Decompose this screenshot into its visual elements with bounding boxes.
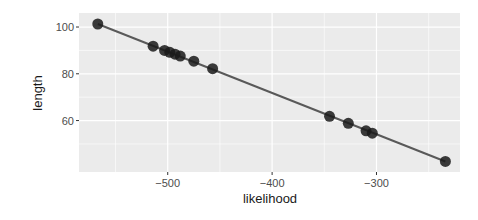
scatter-chart: −500−400−300 6080100 likelihood length xyxy=(0,0,478,220)
y-tick-label: 100 xyxy=(56,21,74,33)
x-axis: −500−400−300 xyxy=(155,172,389,189)
x-tick-label: −400 xyxy=(260,177,285,189)
data-point xyxy=(440,156,451,167)
y-axis-title: length xyxy=(30,75,45,110)
data-point xyxy=(343,118,354,129)
data-point xyxy=(367,128,378,139)
data-point xyxy=(175,51,186,62)
data-point xyxy=(188,56,199,67)
data-point xyxy=(148,41,159,52)
y-tick-label: 60 xyxy=(62,115,74,127)
x-tick-label: −300 xyxy=(364,177,389,189)
data-point xyxy=(324,111,335,122)
x-axis-title: likelihood xyxy=(243,191,297,206)
data-point xyxy=(92,18,103,29)
y-tick-label: 80 xyxy=(62,68,74,80)
x-tick-label: −500 xyxy=(155,177,180,189)
data-point xyxy=(207,63,218,74)
y-axis: 6080100 xyxy=(56,21,79,127)
